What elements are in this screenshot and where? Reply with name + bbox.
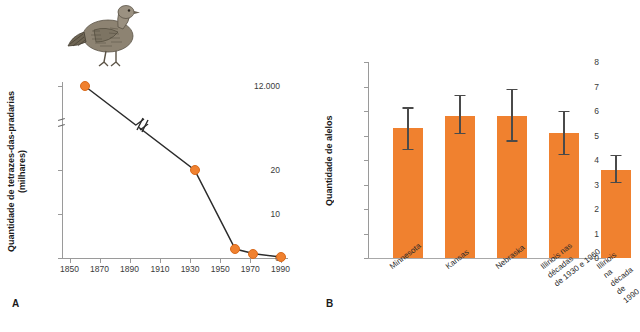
panel-b-y-tick-7 xyxy=(364,87,368,88)
panel-b-errorcap-top-nebraska xyxy=(507,89,518,90)
panel-b-letter: B xyxy=(326,298,333,309)
panel-b-y-ticklabel-6: 6 xyxy=(594,106,599,116)
panel-b-errorcap-bottom-minnesota xyxy=(403,149,414,150)
panel-b-y-tick-4 xyxy=(364,160,368,161)
panel-a-line-chart: Quantidade de tetrazes-das-pradarias (mi… xyxy=(0,0,320,332)
panel-b-errorcap-bottom-illinois-1930-1960 xyxy=(559,154,570,155)
panel-b-y-ticklabel-4: 4 xyxy=(594,155,599,165)
panel-b-y-axis-title: Quantidade de alelos xyxy=(324,96,340,226)
panel-a-x-ticklabel-1910: 1910 xyxy=(145,264,176,274)
panel-b-errorcap-bottom-nebraska xyxy=(507,140,518,141)
panel-b-y-tick-0 xyxy=(364,258,368,259)
panel-a-x-ticklabel-1930: 1930 xyxy=(175,264,206,274)
panel-a-x-ticklabel-1970: 1970 xyxy=(235,264,266,274)
panel-a-y-axis-title: Quantidade de tetrazes-das-pradarias (mi… xyxy=(6,78,30,264)
panel-b-y-ticklabel-5: 5 xyxy=(594,131,599,141)
panel-b-errorbar-minnesota xyxy=(407,109,408,151)
panel-a-datapoint-1860 xyxy=(80,81,90,91)
panel-b-y-ticklabel-8: 8 xyxy=(594,57,599,67)
panel-b-errorcap-top-illinois-1990 xyxy=(611,155,622,156)
panel-a-x-ticklabel-1890: 1890 xyxy=(114,264,145,274)
panel-b-y-tick-3 xyxy=(364,185,368,186)
panel-b-errorcap-bottom-illinois-1990 xyxy=(611,182,622,183)
panel-b-y-ticklabel-3: 3 xyxy=(594,180,599,190)
panel-a-datapoint-1933 xyxy=(190,165,200,175)
panel-a-letter: A xyxy=(12,298,19,309)
panel-b-bar-kansas xyxy=(445,116,475,258)
panel-b-errorbar-illinois-1990 xyxy=(615,156,616,183)
panel-a-plot-area: 0 10 20 12.000 1850 1870 1890 1910 1930 … xyxy=(62,82,288,258)
panel-a-x-ticklabel-1990: 1990 xyxy=(265,264,296,274)
panel-a-datapoint-1960 xyxy=(230,244,240,254)
panel-b-errorcap-top-kansas xyxy=(455,95,466,96)
panel-b-errorbar-nebraska xyxy=(511,90,512,141)
prairie-chicken-icon xyxy=(66,2,152,72)
panel-a-x-ticklabel-1870: 1870 xyxy=(84,264,115,274)
panel-b-errorcap-top-illinois-1930-1960 xyxy=(559,111,570,112)
panel-a-datapoint-1990 xyxy=(276,252,286,262)
panel-b-y-tick-6 xyxy=(364,111,368,112)
panel-a-data-line xyxy=(62,82,288,262)
panel-b-bar-chart: Quantidade de alelos 0 1 2 3 4 5 6 7 8 xyxy=(320,0,640,332)
panel-b-y-axis-line xyxy=(368,62,369,258)
panel-b-errorbar-illinois-1930-1960 xyxy=(563,112,564,155)
panel-a-x-ticklabel-1950: 1950 xyxy=(205,264,236,274)
panel-b-errorbar-kansas xyxy=(459,96,460,134)
panel-b-y-tick-1 xyxy=(364,234,368,235)
panel-b-y-tick-2 xyxy=(364,209,368,210)
panel-a-x-ticklabel-1850: 1850 xyxy=(54,264,85,274)
panel-b-y-ticklabel-7: 7 xyxy=(594,82,599,92)
panel-b-y-tick-5 xyxy=(364,136,368,137)
figure-container: Quantidade de tetrazes-das-pradarias (mi… xyxy=(0,0,640,332)
panel-a-datapoint-1972 xyxy=(248,249,258,259)
panel-b-y-tick-8 xyxy=(364,62,368,63)
panel-b-errorcap-bottom-kansas xyxy=(455,133,466,134)
panel-b-y-ticklabel-2: 2 xyxy=(594,204,599,214)
panel-b-plot-area: 0 1 2 3 4 5 6 7 8 xyxy=(368,62,606,258)
panel-b-errorcap-top-minnesota xyxy=(403,107,414,108)
